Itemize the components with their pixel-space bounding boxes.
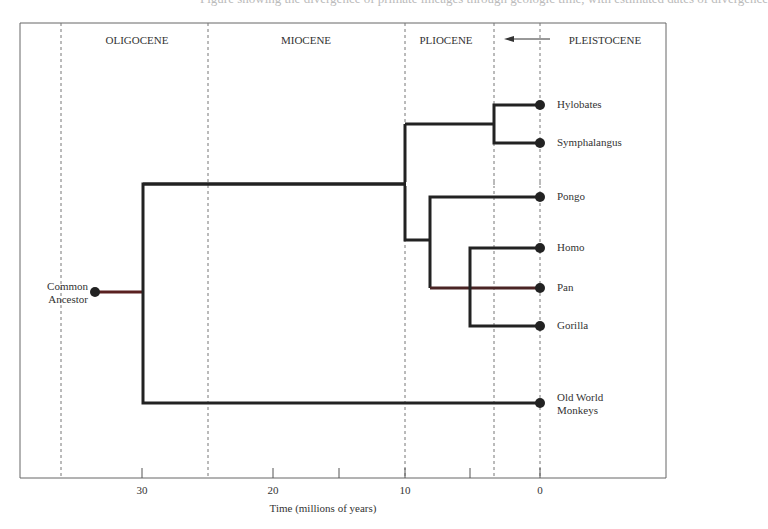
- epoch-label-pleistocene: PLEISTOCENE: [569, 34, 642, 46]
- taxon-label: Monkeys: [557, 404, 598, 416]
- axis-ticks: [142, 468, 540, 478]
- epoch-label-pliocene: PLIOCENE: [419, 34, 472, 46]
- epoch-label-oligocene: OLIGOCENE: [106, 34, 169, 46]
- taxon-label: Hylobates: [557, 98, 602, 110]
- axis-tick-label: 30: [137, 484, 148, 496]
- axis-tick-label: 0: [537, 484, 543, 496]
- taxon-label: Old World: [557, 391, 603, 403]
- epoch-label-miocene: MIOCENE: [281, 34, 331, 46]
- axis-tick-label: 20: [268, 484, 279, 496]
- tree-branches: [95, 105, 540, 403]
- axis-tick-label: 10: [400, 484, 411, 496]
- taxon-label: Homo: [557, 241, 585, 253]
- taxon-dots: [90, 100, 545, 408]
- root-label: Ancestor: [48, 293, 88, 305]
- root-label: Common: [47, 280, 88, 292]
- taxon-label: Gorilla: [557, 319, 588, 331]
- taxon-label: Pan: [557, 281, 574, 293]
- taxon-label: Symphalangus: [557, 136, 622, 148]
- taxon-label: Pongo: [557, 190, 585, 202]
- axis-title: Time (millions of years): [270, 502, 377, 514]
- epoch-boundaries: [61, 23, 540, 478]
